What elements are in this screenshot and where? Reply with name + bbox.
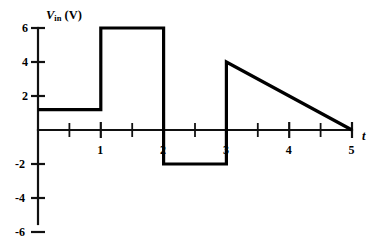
y-axis-label-subscript: in [54,13,61,23]
y-tick-label--4: -4 [15,192,25,204]
y-axis-label-unit: (V) [65,8,82,22]
y-tick-label-4: 4 [22,56,28,68]
x-tick-label-4: 4 [286,144,292,156]
x-tick-label-2: 2 [160,144,166,156]
y-axis-label: Vin (V) [46,8,82,23]
y-tick-label-2: 2 [22,90,28,102]
y-tick-label-6: 6 [22,22,28,34]
x-tick-label-1: 1 [97,144,103,156]
plot-canvas [0,0,387,241]
y-tick-label--2: -2 [15,158,25,170]
signal-waveform-path [38,28,352,164]
x-tick-label-3: 3 [223,144,229,156]
waveform-figure: 642-2-4-6 12345 Vin (V) t [0,0,387,241]
y-tick-label--6: -6 [15,226,25,238]
signal-trace-group [38,28,352,164]
x-axis-label: t [362,129,365,144]
x-tick-label-5: 5 [349,144,355,156]
